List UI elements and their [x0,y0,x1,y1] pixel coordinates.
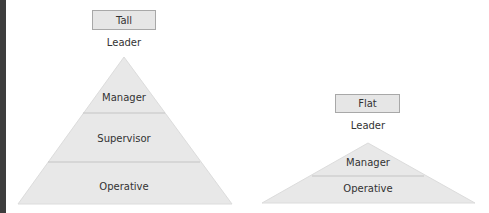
flat-pyramid [262,143,475,203]
flat-leader-label: Leader [328,120,408,131]
tall-title: Tall [116,15,132,26]
tall-layer-supervisor: Supervisor [74,133,174,144]
flat-title: Flat [358,98,377,109]
tall-leader-label: Leader [84,37,164,48]
flat-title-box: Flat [335,94,400,113]
flat-layer-manager: Manager [318,157,418,168]
flat-layer-operative: Operative [318,183,418,194]
tall-title-box: Tall [92,10,156,30]
tall-layer-operative: Operative [74,181,174,192]
tall-layer-manager: Manager [84,92,164,103]
